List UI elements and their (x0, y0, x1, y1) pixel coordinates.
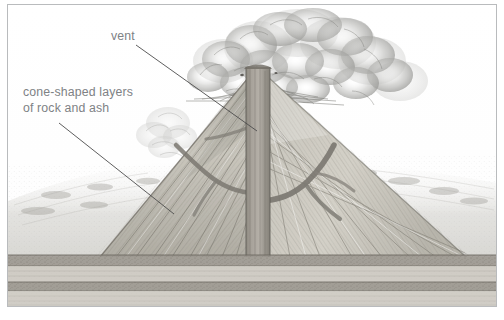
label-vent: vent (111, 29, 135, 45)
ground-strata (8, 255, 497, 307)
volcano-cross-section-artwork (8, 5, 497, 307)
illustration-canvas: vent cone-shaped layersof rock and ash (0, 0, 504, 320)
label-cone-line1: cone-shaped layers (23, 85, 133, 99)
label-cone-shaped-layers: cone-shaped layersof rock and ash (23, 85, 133, 116)
diagram-frame: vent cone-shaped layersof rock and ash (7, 4, 497, 307)
label-cone-line2: of rock and ash (23, 101, 109, 115)
